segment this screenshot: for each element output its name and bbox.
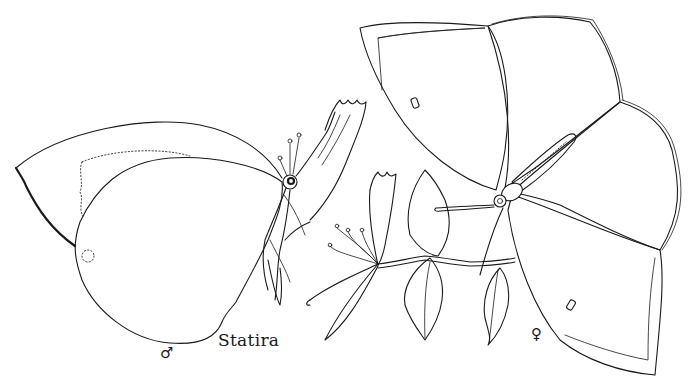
- anther: [335, 224, 339, 228]
- male-leg: [275, 190, 290, 300]
- female-left-forewing-border: [378, 28, 485, 90]
- anther: [360, 228, 364, 232]
- antenna-tip: [297, 133, 301, 137]
- lower-flower-corolla: [370, 172, 396, 265]
- honeysuckle-branch: [268, 100, 515, 345]
- lower-flower-corolla: [369, 190, 378, 265]
- antenna-tip: [278, 156, 282, 160]
- anther: [346, 228, 350, 232]
- male-leg: [270, 240, 290, 282]
- male-eye: [288, 178, 294, 184]
- male-proboscis: [296, 112, 335, 176]
- upper-flower-vein: [318, 115, 340, 158]
- line-drawing: [0, 0, 700, 392]
- female-butterfly: [360, 16, 681, 375]
- female-left-forewing: [360, 23, 508, 191]
- stamen: [330, 246, 378, 264]
- leaf-vein: [425, 262, 430, 338]
- petal: [310, 264, 378, 300]
- female-right-hindwing: [512, 102, 678, 250]
- male-hindwing: [75, 157, 282, 343]
- female-right-forewing-margin: [492, 16, 623, 100]
- petal: [325, 264, 378, 340]
- stamen: [362, 232, 378, 264]
- female-head: [494, 195, 506, 207]
- female-lower-hindwing: [508, 195, 662, 375]
- male-butterfly: [16, 112, 335, 343]
- male-forewing-dotted-line: [82, 151, 190, 162]
- female-lower-hindwing-border: [565, 258, 655, 360]
- male-forewing-outer-margin: [16, 168, 75, 246]
- male-antenna: [280, 160, 287, 176]
- male-hindwing-spot: [82, 250, 94, 262]
- illustration-canvas: Statira ♂ ♀: [0, 0, 700, 392]
- antenna-tip: [288, 139, 292, 143]
- female-forewing-spot: [410, 97, 419, 108]
- female-hindwing-spot: [566, 299, 576, 311]
- upper-flower-vein: [322, 115, 350, 165]
- female-symbol: ♀: [531, 327, 542, 342]
- female-antenna: [435, 205, 494, 211]
- leaf: [408, 170, 449, 256]
- male-forewing-dotted-edge: [80, 162, 83, 216]
- female-right-hindwing-margin: [622, 100, 681, 250]
- species-caption: Statira: [218, 330, 279, 350]
- male-forewing-costa: [16, 122, 282, 178]
- male-antenna: [293, 138, 299, 174]
- petal-tip: [307, 300, 310, 305]
- upper-flower-tube: [285, 222, 310, 240]
- leaf: [404, 258, 442, 340]
- male-symbol: ♂: [160, 346, 173, 361]
- upper-flower-corolla: [310, 100, 366, 220]
